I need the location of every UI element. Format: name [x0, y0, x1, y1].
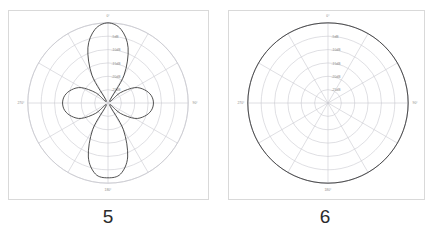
- radial-tick-label: -5dB: [331, 35, 339, 39]
- angle-tick-label: 90°: [193, 101, 199, 105]
- radial-tick-label: -15dB: [111, 62, 121, 66]
- radial-tick-label: -10dB: [331, 48, 341, 52]
- angle-tick-label: 90°: [413, 101, 419, 105]
- polar-chart-5: -5dB-10dB-15dB-20dB-25dB0°90°180°270°: [9, 11, 208, 199]
- figure-canvas: -5dB-10dB-15dB-20dB-25dB0°90°180°270° -5…: [0, 0, 436, 239]
- radial-tick-label: -10dB: [111, 48, 121, 52]
- angle-tick-label: 180°: [325, 188, 333, 192]
- polar-grid: [28, 23, 188, 183]
- angle-tick-label: 270°: [17, 101, 25, 105]
- radial-tick-label: -15dB: [331, 62, 341, 66]
- angle-tick-label: 180°: [105, 188, 113, 192]
- figure-caption-6: 6: [285, 206, 365, 228]
- polar-plot-panel-6: -5dB-10dB-15dB-20dB-25dB0°90°180°270°: [228, 10, 425, 200]
- radial-tick-label: -20dB: [111, 75, 121, 79]
- polar-grid: [248, 23, 408, 183]
- radial-tick-label: -20dB: [331, 75, 341, 79]
- angle-tick-label: 270°: [237, 101, 245, 105]
- figure-caption-5: 5: [68, 206, 148, 228]
- angle-tick-label: 0°: [106, 14, 110, 18]
- polar-chart-6: -5dB-10dB-15dB-20dB-25dB0°90°180°270°: [229, 11, 424, 199]
- radial-tick-label: -25dB: [331, 88, 341, 92]
- radial-tick-label: -5dB: [111, 35, 119, 39]
- angle-tick-label: 0°: [326, 14, 330, 18]
- polar-plot-panel-5: -5dB-10dB-15dB-20dB-25dB0°90°180°270°: [8, 10, 209, 200]
